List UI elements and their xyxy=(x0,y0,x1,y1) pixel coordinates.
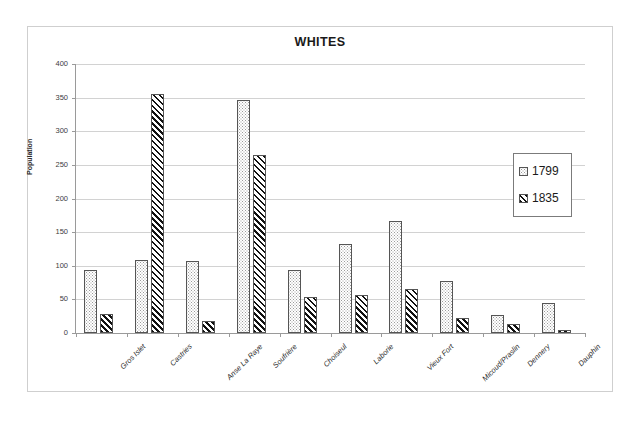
x-axis-label: Choiseul xyxy=(322,342,349,369)
bar-1835 xyxy=(558,330,571,333)
bar-1835 xyxy=(100,314,113,334)
x-tick-mark xyxy=(178,333,179,337)
x-tick-mark xyxy=(432,333,433,337)
x-axis-label: Vieux Fort xyxy=(425,342,455,372)
bar-1835 xyxy=(253,155,266,333)
x-axis-label: Castries xyxy=(168,342,194,368)
x-tick-mark xyxy=(229,333,230,337)
bar-group xyxy=(280,64,331,333)
x-axis-label: Dauphin xyxy=(576,342,602,368)
x-tick-mark xyxy=(76,333,77,337)
bar-1835 xyxy=(151,94,164,333)
y-tick-label-250: 250 xyxy=(28,161,68,169)
bar-group xyxy=(127,64,178,333)
legend-label-1835: 1835 xyxy=(532,192,559,204)
bar-1835 xyxy=(507,324,520,333)
legend-item-1835: 1835 xyxy=(519,192,559,204)
x-axis-label: Dennery xyxy=(525,342,551,368)
x-axis-label: Laborie xyxy=(371,342,395,366)
y-tick-label-400: 400 xyxy=(28,60,68,68)
y-tick-label-150: 150 xyxy=(28,228,68,236)
bar-1799 xyxy=(389,221,402,333)
bar-1799 xyxy=(491,315,504,333)
bar-group xyxy=(432,64,483,333)
bar-1799 xyxy=(288,270,301,333)
x-axis-label: Soufrière xyxy=(271,342,299,370)
bar-1835 xyxy=(405,289,418,333)
bar-1835 xyxy=(304,297,317,333)
legend-label-1799: 1799 xyxy=(532,165,559,177)
y-axis-title: Population xyxy=(26,139,33,175)
bar-1799 xyxy=(186,261,199,333)
bar-1835 xyxy=(202,321,215,333)
bar-group xyxy=(331,64,382,333)
chart-title: WHITES xyxy=(28,35,612,49)
y-tick-label-100: 100 xyxy=(28,262,68,270)
bar-1799 xyxy=(542,303,555,333)
bar-1799 xyxy=(84,270,97,333)
x-axis-label: Anse La Raye xyxy=(225,342,265,382)
x-axis-label: Micoud/Praslin xyxy=(480,342,521,383)
x-axis-label: Gros Islet xyxy=(119,342,148,371)
legend-swatch-hatch-icon xyxy=(519,194,528,203)
x-tick-mark xyxy=(483,333,484,337)
x-tick-mark xyxy=(127,333,128,337)
bar-1799 xyxy=(440,281,453,333)
chart-frame: WHITES Population 0501001502002503003504… xyxy=(27,26,613,392)
bar-group xyxy=(178,64,229,333)
x-tick-mark xyxy=(585,333,586,337)
bar-group xyxy=(229,64,280,333)
x-tick-mark xyxy=(280,333,281,337)
y-tick-label-50: 50 xyxy=(28,295,68,303)
y-tick-label-200: 200 xyxy=(28,195,68,203)
bar-1835 xyxy=(355,295,368,333)
x-tick-mark xyxy=(331,333,332,337)
legend-swatch-dotted-icon xyxy=(519,167,528,176)
y-tick-label-0: 0 xyxy=(28,329,68,337)
bar-1799 xyxy=(339,244,352,333)
bar-group xyxy=(381,64,432,333)
x-tick-mark xyxy=(534,333,535,337)
y-tick-label-300: 300 xyxy=(28,127,68,135)
plot-area: Gros IsletCastriesAnse La RayeSoufrièreC… xyxy=(76,64,585,333)
chart-legend: 1799 1835 xyxy=(513,153,572,217)
bar-group xyxy=(76,64,127,333)
legend-item-1799: 1799 xyxy=(519,165,559,177)
bar-1835 xyxy=(456,318,469,333)
y-tick-label-350: 350 xyxy=(28,94,68,102)
bar-1799 xyxy=(135,260,148,333)
bar-1799 xyxy=(237,100,250,333)
x-tick-mark xyxy=(381,333,382,337)
